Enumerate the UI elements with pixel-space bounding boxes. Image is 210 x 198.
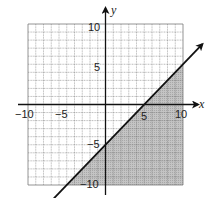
y-axis-label: y	[110, 3, 117, 17]
y-tick-label-neg5: −5	[87, 138, 100, 150]
x-axis-label: x	[198, 97, 205, 111]
y-tick-label-neg10: −10	[80, 178, 99, 190]
y-tick-label-10: 10	[88, 21, 100, 33]
x-tick-label-neg5: −5	[55, 108, 68, 120]
y-tick-label-5: 5	[94, 61, 100, 73]
x-tick-label-neg10: −10	[15, 108, 34, 120]
inequality-graph: x y −10 −5 5 10 10 5 −5 −10	[0, 0, 210, 198]
x-tick-label-10: 10	[175, 108, 187, 120]
x-tick-label-5: 5	[141, 110, 147, 122]
